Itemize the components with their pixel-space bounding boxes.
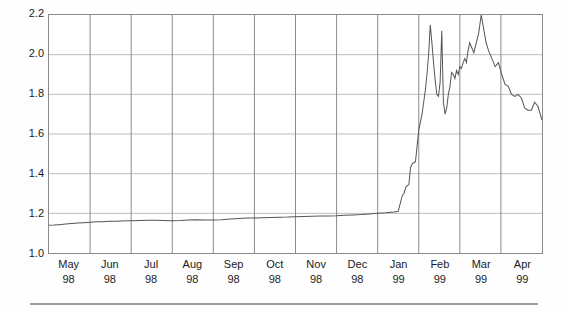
y-axis: 1.01.21.41.61.82.02.2 <box>0 14 44 254</box>
x-axis-tick-label: Mar99 <box>461 257 502 287</box>
x-axis-tick-month: Feb <box>419 257 460 272</box>
footer-divider <box>30 303 538 305</box>
x-axis-tick-label: Jul98 <box>131 257 172 287</box>
x-axis-tick-year: 98 <box>89 272 130 287</box>
x-axis-tick-label: May98 <box>48 257 89 287</box>
y-axis-tick-label: 2.2 <box>4 8 44 19</box>
series-polyline <box>49 15 542 225</box>
y-axis-tick-label: 1.2 <box>4 208 44 219</box>
x-axis-tick-month: Jun <box>89 257 130 272</box>
x-axis: May98Jun98Jul98Aug98Sep98Oct98Nov98Dec98… <box>48 257 543 299</box>
x-axis-tick-year: 98 <box>172 272 213 287</box>
y-axis-tick-label: 2.0 <box>4 48 44 59</box>
x-axis-tick-label: Dec98 <box>337 257 378 287</box>
x-axis-tick-label: Nov98 <box>296 257 337 287</box>
x-axis-tick-year: 99 <box>419 272 460 287</box>
plot-area <box>48 14 543 254</box>
x-axis-tick-year: 98 <box>48 272 89 287</box>
y-axis-tick-label: 1.6 <box>4 128 44 139</box>
x-axis-tick-month: May <box>48 257 89 272</box>
x-axis-tick-month: Mar <box>461 257 502 272</box>
chart-figure: 1.01.21.41.61.82.02.2 May98Jun98Jul98Aug… <box>0 0 565 314</box>
x-axis-tick-month: Sep <box>213 257 254 272</box>
data-series-line <box>49 15 542 253</box>
x-axis-tick-month: Jul <box>131 257 172 272</box>
x-axis-tick-month: Oct <box>254 257 295 272</box>
y-axis-tick-label: 1.0 <box>4 248 44 259</box>
x-axis-tick-month: Dec <box>337 257 378 272</box>
x-axis-tick-year: 98 <box>337 272 378 287</box>
x-axis-tick-year: 98 <box>296 272 337 287</box>
x-axis-tick-year: 98 <box>131 272 172 287</box>
y-axis-tick-label: 1.4 <box>4 168 44 179</box>
x-axis-tick-label: Jan99 <box>378 257 419 287</box>
x-axis-tick-month: Jan <box>378 257 419 272</box>
x-axis-tick-year: 99 <box>378 272 419 287</box>
y-axis-tick-label: 1.8 <box>4 88 44 99</box>
x-axis-tick-year: 99 <box>461 272 502 287</box>
x-axis-tick-year: 98 <box>254 272 295 287</box>
x-axis-tick-label: Aug98 <box>172 257 213 287</box>
x-axis-tick-label: Sep98 <box>213 257 254 287</box>
x-axis-tick-month: Nov <box>296 257 337 272</box>
x-axis-tick-label: Oct98 <box>254 257 295 287</box>
x-axis-tick-label: Feb99 <box>419 257 460 287</box>
x-axis-tick-label: Apr99 <box>502 257 543 287</box>
x-axis-tick-year: 98 <box>213 272 254 287</box>
x-axis-tick-month: Apr <box>502 257 543 272</box>
x-axis-tick-year: 99 <box>502 272 543 287</box>
x-axis-tick-label: Jun98 <box>89 257 130 287</box>
x-axis-tick-month: Aug <box>172 257 213 272</box>
